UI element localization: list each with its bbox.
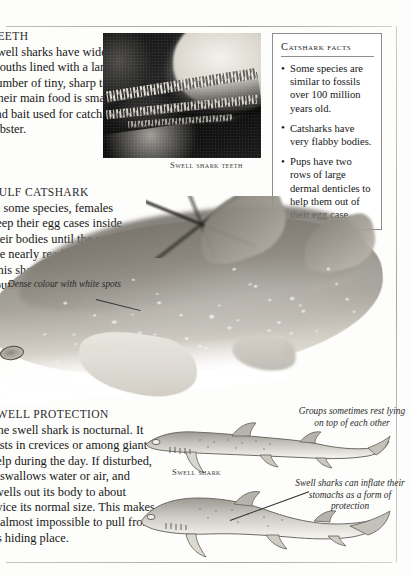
swell-protection-section: SWELL PROTECTION The swell shark is noct… (0, 408, 155, 546)
bottom-divider-rule (6, 562, 392, 563)
list-item: Catsharks have very flabby bodies. (281, 122, 374, 148)
facts-box-separator (281, 56, 374, 57)
teeth-photo-caption: Swell shark teeth (170, 160, 243, 170)
swell-protection-body: The swell shark is nocturnal. It rests i… (0, 423, 155, 546)
swell-shark-label: Swell shark (172, 467, 221, 477)
list-item: Some species are similar to fossils over… (281, 62, 374, 115)
photo-grain-overlay (103, 33, 261, 158)
facts-box-title: Catshark facts (281, 41, 374, 52)
dense-colour-annotation: Dense colour with white spots (8, 279, 126, 291)
gulf-catshark-illustration (0, 196, 406, 404)
groups-rest-annotation: Groups sometimes rest lying on top of ea… (296, 406, 408, 429)
top-divider-rule (6, 26, 392, 27)
swell-shark-teeth-photo (103, 33, 261, 158)
inflate-stomach-annotation: Swell sharks can inflate their stomachs … (292, 478, 408, 513)
swell-protection-heading: SWELL PROTECTION (0, 408, 155, 420)
book-page: TEETH Swell sharks have wide mouths line… (0, 0, 410, 575)
